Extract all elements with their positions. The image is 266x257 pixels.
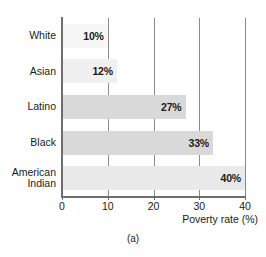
x-tick-label-30: 30 bbox=[184, 200, 214, 212]
x-tick-label-40: 40 bbox=[230, 200, 260, 212]
x-tick-label-10: 10 bbox=[93, 200, 123, 212]
bar-value-label: 27% bbox=[161, 101, 181, 113]
bar: 12% bbox=[62, 59, 117, 83]
category-label: White bbox=[0, 30, 56, 42]
bar: 27% bbox=[62, 95, 186, 119]
gridline-40 bbox=[245, 18, 246, 196]
plot-area: 10%12%27%33%40% bbox=[62, 18, 245, 196]
x-tick-label-20: 20 bbox=[139, 200, 169, 212]
category-label: American Indian bbox=[0, 167, 56, 190]
x-axis-title: Poverty rate (%) bbox=[0, 213, 258, 225]
y-axis-line bbox=[61, 17, 63, 197]
category-label: Latino bbox=[0, 101, 56, 113]
x-tick-label-0: 0 bbox=[47, 200, 77, 212]
figure-container: 10%12%27%33%40% 010203040 WhiteAsianLati… bbox=[0, 0, 266, 257]
bar-value-label: 12% bbox=[92, 65, 112, 77]
figure-caption: (a) bbox=[0, 233, 266, 244]
category-label: Black bbox=[0, 137, 56, 149]
bar: 33% bbox=[62, 131, 213, 155]
bar-value-label: 10% bbox=[83, 30, 103, 42]
bar-value-label: 40% bbox=[221, 172, 241, 184]
category-label: Asian bbox=[0, 66, 56, 78]
bar: 40% bbox=[62, 166, 245, 190]
bar-value-label: 33% bbox=[189, 137, 209, 149]
bar: 10% bbox=[62, 24, 108, 48]
